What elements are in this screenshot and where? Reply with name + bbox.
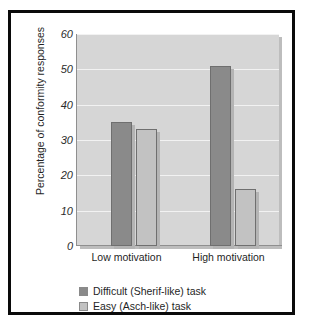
x-tick-label-high-motivation: High motivation bbox=[176, 251, 281, 263]
x-tick-label-low-motivation: Low motivation bbox=[74, 251, 179, 263]
legend-item-difficult: Difficult (Sherif-like) task bbox=[79, 285, 206, 298]
y-axis-label: Percentage of conformity responses bbox=[34, 26, 46, 196]
bars-layer bbox=[77, 34, 279, 246]
legend-swatch-icon bbox=[79, 287, 88, 296]
legend-swatch-icon bbox=[79, 302, 88, 311]
bar-difficult-high bbox=[210, 66, 231, 246]
bar-difficult-low bbox=[111, 122, 132, 246]
bar-chart: 60 50 40 30 20 10 0 Percentage of confor… bbox=[11, 13, 292, 312]
y-tick-label: 10 bbox=[33, 206, 73, 216]
legend-label: Difficult (Sherif-like) task bbox=[93, 286, 206, 297]
chart-legend: Difficult (Sherif-like) task Easy (Asch-… bbox=[79, 285, 206, 315]
legend-label: Easy (Asch-like) task bbox=[93, 301, 191, 312]
legend-item-easy: Easy (Asch-like) task bbox=[79, 300, 206, 313]
bar-easy-high bbox=[235, 189, 256, 246]
figure-frame: 60 50 40 30 20 10 0 Percentage of confor… bbox=[8, 10, 295, 315]
y-tick-label: 0 bbox=[33, 241, 73, 251]
bar-easy-low bbox=[136, 129, 157, 246]
